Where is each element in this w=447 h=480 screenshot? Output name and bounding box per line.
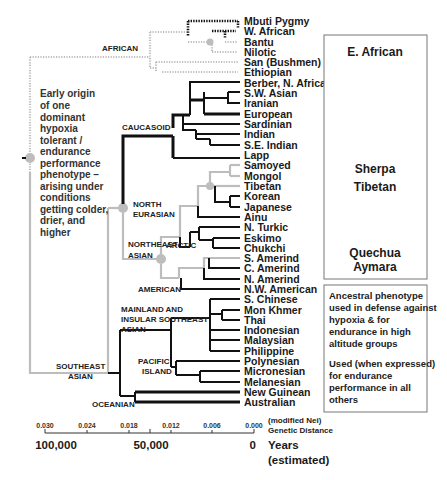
clade-label-american: AMERICAN	[138, 285, 181, 294]
clade-label-north-eurasian-2: EURASIAN	[133, 210, 175, 219]
annotation-line: dominant	[40, 112, 86, 123]
legend-line: altitude groups	[329, 338, 398, 349]
legend-line: used in defense against	[329, 302, 438, 313]
american-branches: AMERICAN	[138, 258, 240, 294]
clade-label-mainland-3: ASIAN	[121, 325, 146, 334]
axis-tick-label: 0.012	[162, 422, 180, 429]
years-label: 50,000	[133, 439, 168, 451]
legend-line: Used (when expressed)	[329, 358, 435, 369]
leaf-label: Australian	[244, 396, 295, 408]
axis-label-genetic-distance: Genetic Distance	[268, 426, 333, 435]
clade-label-southeast-asian-2: ASIAN	[68, 372, 93, 381]
years-axis-subtitle: (estimated)	[268, 454, 330, 466]
axis-tick-label: 0.018	[120, 422, 138, 429]
clade-label-pacific-2: ISLAND	[142, 367, 172, 376]
highland-group-e-african: E. African	[347, 45, 403, 59]
axis-label-modified-nei: (modified Nei)	[268, 416, 322, 425]
legend-line: for endurance	[329, 370, 392, 381]
axis-tick-label: 0.006	[203, 422, 221, 429]
clade-label-southeast-asian-1: SOUTHEAST	[56, 362, 105, 371]
annotation-line: arising under	[40, 181, 103, 192]
clade-label-mainland-1: MAINLAND AND	[121, 305, 183, 314]
caucasoid-branches: CAUCASOID NORTH EURASIAN	[122, 82, 240, 219]
annotation-line: higher	[40, 227, 71, 238]
origin-annotation: Early origin of one dominant hypoxia tol…	[40, 88, 109, 238]
north-eurasian-node	[118, 203, 128, 213]
phylogenetic-tree-diagram: AFRICAN CAUCASOID NORTH EURASIAN	[0, 0, 447, 480]
highland-groups-box: E. African Sherpa Tibetan Quechua Aymara	[324, 35, 427, 279]
axis-tick-label: 0.024	[78, 422, 96, 429]
annotation-line: of one	[40, 100, 70, 111]
clade-label-caucasoid: CAUCASOID	[122, 123, 171, 132]
clade-label-north-eurasian-1: NORTH	[133, 200, 162, 209]
legend-line: endurance in high	[329, 326, 411, 337]
annotation-line: drier, and	[40, 215, 85, 226]
legend-box: Ancestral phenotype used in defense agai…	[324, 285, 438, 412]
annotation-line: getting colder,	[40, 204, 109, 215]
annotation-line: performance	[40, 158, 101, 169]
years-label: 0	[250, 439, 256, 451]
annotation-line: conditions	[40, 192, 91, 203]
clade-label-northeast-asian-2: ASIAN	[128, 251, 153, 260]
legend-line: performance in all	[329, 382, 411, 393]
clade-label-pacific-1: PACIFIC	[138, 357, 170, 366]
annotation-line: endurance	[40, 146, 91, 157]
legend-line: hypoxia & for	[329, 314, 390, 325]
years-axis-title: Years	[268, 439, 299, 451]
clade-label-oceanian: OCEANIAN	[92, 400, 135, 409]
genetic-distance-axis: 0.030 0.024 0.018 0.012 0.006 0.000 (mod…	[35, 416, 333, 466]
highland-group-aymara: Aymara	[353, 260, 397, 274]
annotation-line: phenotype –	[40, 169, 99, 180]
annotation-line: tolerant /	[40, 135, 82, 146]
clade-label-mainland-2: INSULAR SOUTHEAST	[121, 315, 208, 324]
legend-line: Ancestral phenotype	[329, 290, 423, 301]
years-label: 100,000	[35, 439, 77, 451]
root-node	[25, 153, 35, 163]
axis-tick-label: 0.030	[36, 422, 54, 429]
annotation-line: hypoxia	[40, 123, 78, 134]
clade-label-african: AFRICAN	[102, 44, 138, 53]
southeast-asian-branches: MAINLAND AND INSULAR SOUTHEAST ASIAN PAC…	[56, 299, 240, 409]
highland-group-tibetan: Tibetan	[354, 180, 396, 194]
highland-group-quechua: Quechua	[349, 246, 401, 260]
annotation-line: Early origin	[40, 88, 95, 99]
legend-line: others	[329, 394, 358, 405]
leaf-labels: Mbuti Pygmy W. African Bantu Nilotic San…	[244, 15, 332, 408]
clade-label-arctic: ARCTIC	[166, 241, 196, 250]
highland-group-sherpa: Sherpa	[355, 162, 396, 176]
axis-tick-label: 0.000	[245, 422, 263, 429]
